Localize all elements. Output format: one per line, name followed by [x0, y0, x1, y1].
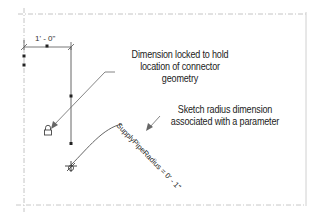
dimension-value-label[interactable]: 1' - 0" — [35, 34, 55, 43]
grip-vertical-mid[interactable] — [70, 95, 73, 98]
grip-left-lower[interactable] — [23, 64, 26, 67]
leader-locked-dimension — [51, 72, 115, 129]
callout-line: location of connector — [120, 60, 240, 72]
dimension-grip[interactable] — [46, 45, 49, 48]
callout-radius-dimension: Sketch radius dimension associated with … — [161, 103, 290, 127]
leader-radius-dimension — [146, 116, 160, 131]
grip-left-upper[interactable] — [23, 55, 26, 58]
callout-line: Sketch radius dimension — [161, 103, 290, 115]
lock-icon[interactable] — [45, 125, 52, 135]
sketch-canvas: 1' - 0" SupplyPipeRadius = 0' - 1" Dimen… — [0, 0, 321, 218]
callout-locked-dimension: Dimension locked to hold location of con… — [120, 48, 240, 84]
callout-line: associated with a parameter — [161, 115, 290, 127]
grip-vertical-end[interactable] — [70, 142, 73, 145]
callout-line: geometry — [120, 72, 240, 84]
callout-line: Dimension locked to hold — [120, 48, 240, 60]
connector-origin-icon[interactable] — [65, 161, 77, 172]
sketch-arc[interactable] — [71, 124, 122, 165]
